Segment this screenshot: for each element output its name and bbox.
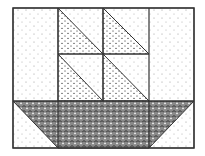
quilt-block-diagram bbox=[0, 0, 205, 156]
sailboat-block-svg bbox=[0, 0, 205, 156]
